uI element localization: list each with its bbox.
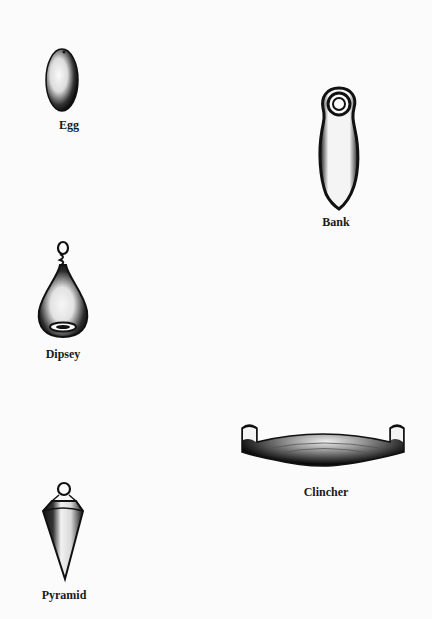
dipsey-label: Dipsey [46, 347, 81, 362]
bank-label: Bank [322, 215, 349, 230]
pyramid-label: Pyramid [42, 588, 87, 603]
clincher-sinker-icon [240, 420, 406, 470]
pyramid-sinker-icon [37, 481, 89, 583]
egg-label: Egg [59, 118, 79, 133]
egg-sinker-icon [44, 42, 80, 120]
bank-sinker-icon [314, 86, 364, 211]
clincher-label: Clincher [304, 485, 349, 500]
dipsey-sinker-icon [36, 241, 92, 343]
